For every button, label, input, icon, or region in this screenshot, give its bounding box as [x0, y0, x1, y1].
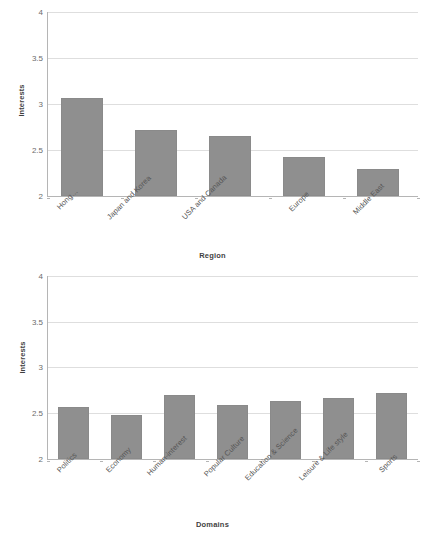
- y-tick-label: 2: [17, 193, 43, 201]
- x-axis-title-region: Region: [0, 251, 425, 260]
- y-axis-line: [47, 12, 48, 197]
- chart-domains: Interests 4 3.5 3 2.5 2 Politi: [0, 265, 425, 550]
- gridline: [47, 322, 418, 323]
- x-tick-mark: [365, 461, 368, 462]
- y-tick-label: 4: [17, 273, 43, 281]
- y-tick-label: 2.5: [17, 147, 43, 155]
- gridline: [47, 367, 418, 368]
- x-axis-title-domains: Domains: [0, 520, 425, 529]
- x-tick-mark: [269, 198, 272, 199]
- y-tick-label: 3.5: [17, 55, 43, 63]
- x-tick-mark: [47, 198, 50, 199]
- x-tick-label: Japan and Korea: [105, 174, 153, 222]
- x-tick-label: USA and Canada: [180, 173, 228, 221]
- bar-sports: [376, 393, 407, 459]
- plot-area-region: Interests 4 3.5 3 2.5 2 Hong… Japan and …: [0, 0, 425, 265]
- y-tick-label: 3: [17, 101, 43, 109]
- x-tick-mark: [417, 198, 420, 199]
- x-tick-mark: [47, 461, 50, 462]
- bar-hong-kong: [61, 98, 103, 196]
- x-tick-mark: [343, 198, 346, 199]
- plot-area-domains: Interests 4 3.5 3 2.5 2 Politi: [0, 265, 425, 550]
- x-tick-mark: [417, 461, 420, 462]
- x-tick-mark: [100, 461, 103, 462]
- y-axis-title-domains: Interests: [18, 328, 27, 388]
- x-axis-line: [47, 459, 418, 460]
- gridline: [47, 276, 418, 277]
- y-tick-label: 2.5: [17, 410, 43, 418]
- y-tick-label: 2: [17, 456, 43, 464]
- chart-region: Interests 4 3.5 3 2.5 2 Hong… Japan and …: [0, 0, 425, 265]
- y-tick-label: 3.5: [17, 319, 43, 327]
- gridline: [47, 58, 418, 59]
- y-tick-label: 4: [17, 9, 43, 17]
- y-tick-label: 3: [17, 364, 43, 372]
- x-tick-mark: [206, 461, 209, 462]
- gridline: [47, 12, 418, 13]
- y-axis-line: [47, 276, 48, 459]
